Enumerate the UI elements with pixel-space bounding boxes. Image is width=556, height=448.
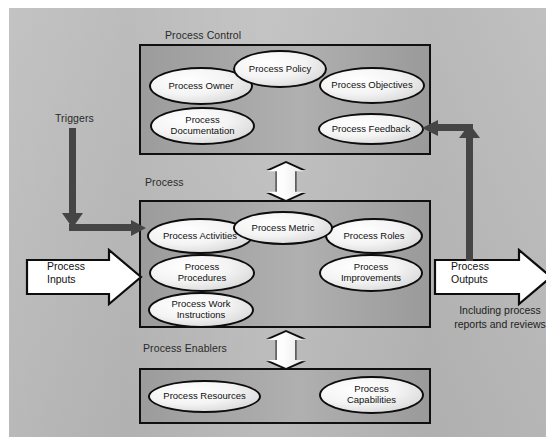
node-process-resources[interactable]: Process Resources <box>148 380 261 413</box>
section-label-process-control: Process Control <box>165 29 241 41</box>
section-label-process: Process <box>145 176 184 188</box>
node-process-procedures[interactable]: Process Procedures <box>149 254 255 292</box>
triggers-horizontal-stem <box>69 224 136 231</box>
process-inputs-label: Process Inputs <box>47 260 85 287</box>
node-process-work-instructions[interactable]: Process Work Instructions <box>148 292 254 328</box>
section-label-process-enablers: Process Enablers <box>143 342 227 354</box>
triggers-vertical-stem <box>69 128 76 218</box>
feedback-horizontal-stem <box>437 124 473 131</box>
node-process-roles[interactable]: Process Roles <box>325 218 423 254</box>
feedback-vertical-stem <box>466 136 473 261</box>
feedback-left-arrowhead <box>422 120 438 136</box>
triggers-label: Triggers <box>55 112 94 124</box>
node-process-documentation[interactable]: Process Documentation <box>150 107 255 145</box>
process-outputs-label: Process Outputs <box>451 260 489 287</box>
diagram-canvas: Process Control Process Process Enablers… <box>9 8 546 437</box>
node-process-objectives[interactable]: Process Objectives <box>319 67 425 104</box>
node-process-feedback[interactable]: Process Feedback <box>318 113 424 145</box>
triggers-right-arrowhead <box>131 220 146 236</box>
process-outputs-arrow[interactable] <box>433 248 546 306</box>
process-outputs-note: Including process reports and reviews <box>441 304 546 331</box>
node-process-policy[interactable]: Process Policy <box>233 50 327 88</box>
node-process-metric[interactable]: Process Metric <box>233 211 333 245</box>
node-process-improvements[interactable]: Process Improvements <box>319 254 423 292</box>
node-process-capabilities[interactable]: Process Capabilities <box>319 376 424 414</box>
